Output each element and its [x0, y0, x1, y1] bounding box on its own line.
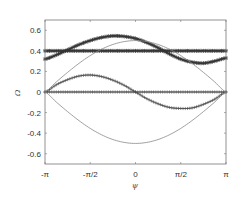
x-tick-label: π: [223, 170, 229, 179]
y-tick-label: 0: [37, 88, 42, 97]
y-tick-label: -0.2: [27, 109, 41, 118]
x-tick-label: 0: [133, 170, 138, 179]
y-tick-label: 0.6: [30, 26, 42, 35]
x-tick-label: -π/2: [83, 170, 98, 179]
y-tick-label: -0.4: [27, 129, 41, 138]
chart: -π-π/20π/2π 0.60.40.20-0.2-0.4-0.6 ψ Ω: [0, 0, 239, 202]
x-tick-label: -π: [41, 170, 50, 179]
y-axis-label: Ω: [13, 89, 22, 97]
star-constant-series: [43, 49, 228, 53]
y-tick-label: -0.6: [27, 150, 41, 159]
x-axis-label: ψ: [132, 181, 139, 190]
x-axis-ticks: -π-π/20π/2π: [41, 20, 229, 179]
y-tick-label: 0.2: [30, 67, 42, 76]
plus-constant-series: [43, 90, 227, 93]
y-tick-label: 0.4: [30, 47, 42, 56]
x-tick-label: π/2: [175, 170, 188, 179]
lower-envelope-series: [45, 92, 226, 143]
plot-series: [43, 34, 228, 144]
